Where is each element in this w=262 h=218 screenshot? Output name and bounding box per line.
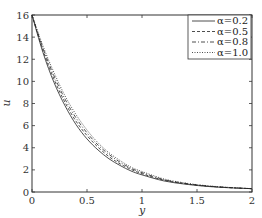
line-chart: 00.511.52 0246810121416 y u α=0.2α=0.5α=… <box>0 0 262 218</box>
y-tick-label: 6 <box>23 120 29 131</box>
y-axis-label: u <box>0 99 13 106</box>
legend-item-label: α=0.2 <box>217 15 248 26</box>
x-axis-label: y <box>138 204 146 217</box>
y-tick-label: 16 <box>16 10 29 21</box>
legend-item-label: α=0.8 <box>217 36 248 47</box>
x-tick-label: 2 <box>249 195 255 206</box>
y-tick-label: 14 <box>16 32 29 43</box>
x-tick-label: 0.5 <box>79 195 95 206</box>
y-tick-label: 4 <box>23 142 29 153</box>
legend-item-label: α=0.5 <box>217 26 248 37</box>
x-tick-label: 0 <box>29 195 35 206</box>
x-tick-label: 1.5 <box>189 195 205 206</box>
legend-item-label: α=1.0 <box>217 47 248 58</box>
y-tick-label: 10 <box>16 76 29 87</box>
y-tick-label: 12 <box>16 54 29 65</box>
y-tick-label: 8 <box>23 98 29 109</box>
y-tick-label: 0 <box>23 187 29 198</box>
legend: α=0.2α=0.5α=0.8α=1.0 <box>188 15 251 59</box>
y-tick-label: 2 <box>23 164 29 175</box>
